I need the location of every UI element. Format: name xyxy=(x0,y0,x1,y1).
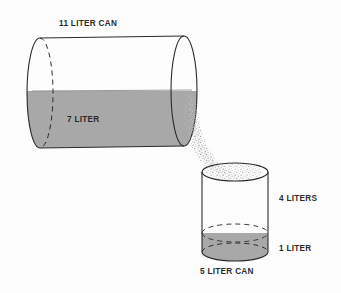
big-can-liquid-surface xyxy=(32,90,192,91)
diagram-canvas: 11 LITER CAN 7 LITER 4 LITERS 1 LITER 5 … xyxy=(0,0,341,293)
small-can-headroom-label: 4 LITERS xyxy=(279,195,317,203)
big-can-title-label: 11 LITER CAN xyxy=(59,20,117,28)
small-can-volume-label: 1 LITER xyxy=(279,245,312,253)
big-can-volume-label: 7 LITER xyxy=(67,116,100,124)
small-can-liquid-surface-back xyxy=(202,224,268,233)
big-can-top-edge xyxy=(40,36,184,38)
pouring-stream-group xyxy=(183,92,262,181)
small-can-title-label: 5 LITER CAN xyxy=(200,268,254,276)
pour-splash-at-mouth xyxy=(206,164,262,180)
big-can-group xyxy=(26,36,200,153)
